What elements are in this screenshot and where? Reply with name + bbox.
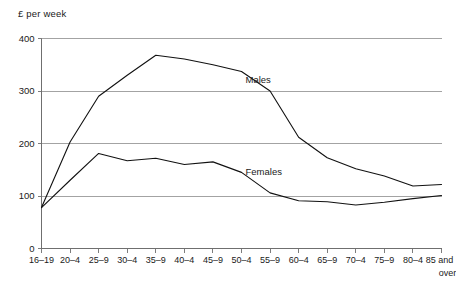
series-annotations-group: MalesFemales	[246, 74, 283, 177]
y-axis-ticks-group: 0100200300400	[19, 33, 42, 254]
x-tick-label: 55–9	[260, 255, 280, 265]
series-lines-group	[42, 55, 442, 207]
x-tick-label: 60–4	[289, 255, 309, 265]
y-tick-label: 100	[19, 190, 35, 201]
x-tick-label: 65–9	[317, 255, 337, 265]
x-tick-label: 75–9	[374, 255, 394, 265]
gridlines-group	[42, 39, 442, 249]
line-chart-plot: 0100200300400 16–1920–425–930–435–940–44…	[0, 0, 456, 291]
series-annotation-males: Males	[246, 74, 272, 85]
x-tick-label: 80–4	[403, 255, 423, 265]
x-axis-ticks-group: 16–1920–425–930–435–940–445–950–455–960–…	[29, 249, 456, 278]
x-tick-label: 40–4	[174, 255, 194, 265]
x-tick-label: 25–9	[89, 255, 109, 265]
series-annotation-females: Females	[246, 166, 283, 177]
y-tick-label: 400	[19, 33, 35, 44]
x-tick-label: 16–19	[29, 255, 54, 265]
y-tick-label: 200	[19, 138, 35, 149]
series-line-males	[42, 55, 442, 207]
y-tick-label: 0	[29, 243, 34, 254]
chart-container: £ per week 0100200300400 16–1920–425–930…	[0, 0, 456, 291]
x-tick-label: 35–9	[146, 255, 166, 265]
x-tick-label: 85 andover	[426, 255, 456, 278]
x-tick-label: 30–4	[117, 255, 137, 265]
x-tick-label: 20–4	[60, 255, 80, 265]
x-tick-label: 50–4	[231, 255, 251, 265]
x-tick-label: 70–4	[346, 255, 366, 265]
series-line-females	[42, 153, 442, 207]
x-tick-label: 45–9	[203, 255, 223, 265]
y-tick-label: 300	[19, 85, 35, 96]
